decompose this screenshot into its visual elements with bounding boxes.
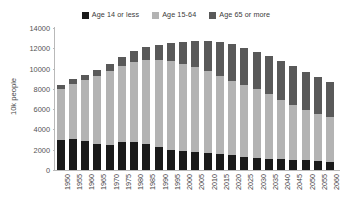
plot-area: [55, 28, 339, 170]
bar-segment: [326, 162, 334, 170]
y-axis-tick-label: 4000: [34, 126, 53, 133]
bar-segment: [130, 62, 138, 142]
bar-segment: [167, 61, 175, 149]
bar-segment: [179, 42, 187, 64]
bar-segment: [204, 71, 212, 153]
y-axis-tick-label: 8000: [34, 86, 53, 93]
bar-stack[interactable]: [130, 51, 138, 170]
x-axis-tick-label: 2035: [272, 174, 280, 190]
bar-stack[interactable]: [179, 42, 187, 170]
bar-segment: [69, 84, 77, 140]
bar-segment: [277, 159, 285, 170]
x-axis-tick-label: 2020: [235, 174, 243, 190]
y-axis-title: 10k people: [9, 67, 18, 127]
bar-segment: [326, 82, 334, 117]
bar-stack[interactable]: [142, 47, 150, 170]
bar-stack[interactable]: [118, 57, 126, 170]
bar-segment: [289, 160, 297, 170]
chart-legend: Age 14 or lessAge 15-64Age 65 or more: [0, 11, 352, 19]
bar-segment: [167, 43, 175, 62]
bar-stack[interactable]: [253, 52, 261, 170]
bar-segment: [179, 64, 187, 151]
bar-segment: [142, 60, 150, 144]
bar-stack[interactable]: [106, 64, 114, 170]
legend-label: Age 15-64: [162, 11, 196, 19]
bar-segment: [93, 144, 101, 170]
y-axis-tick: 14000: [0, 28, 55, 29]
y-axis-tick: 6000: [0, 109, 55, 110]
bar-segment: [106, 71, 114, 144]
bar-segment: [204, 153, 212, 170]
chart-page: Age 14 or lessAge 15-64Age 65 or more 10…: [0, 0, 352, 210]
x-axis-line: [54, 170, 340, 171]
legend-label: Age 65 or more: [219, 11, 270, 19]
bar-stack[interactable]: [216, 42, 224, 170]
bar-segment: [289, 66, 297, 105]
bar-stack[interactable]: [314, 77, 322, 170]
bar-segment: [57, 89, 65, 139]
bar-stack[interactable]: [204, 41, 212, 170]
legend-item[interactable]: Age 14 or less: [82, 11, 139, 19]
bar-segment: [302, 160, 310, 170]
bar-segment: [93, 76, 101, 144]
bar-stack[interactable]: [69, 79, 77, 170]
x-axis-tick-label: 2005: [198, 174, 206, 190]
x-axis-tick-label: 2025: [247, 174, 255, 190]
bar-segment: [130, 142, 138, 170]
y-axis-tick: 2000: [0, 150, 55, 151]
bar-segment: [228, 81, 236, 155]
bar-segment: [118, 57, 126, 66]
bar-stack[interactable]: [191, 41, 199, 170]
y-axis-tick: 10000: [0, 69, 55, 70]
x-axis-tick-label: 1970: [113, 174, 121, 190]
x-axis-tick-label: 2015: [223, 174, 231, 190]
bar-segment: [118, 66, 126, 143]
bar-segment: [167, 150, 175, 170]
bar-stack[interactable]: [240, 48, 248, 170]
bar-stack[interactable]: [265, 56, 273, 170]
x-axis-tick-label: 1995: [174, 174, 182, 190]
bar-segment: [81, 80, 89, 141]
bar-segment: [277, 100, 285, 159]
bar-segment: [191, 152, 199, 170]
bar-segment: [314, 161, 322, 170]
y-axis-tick-label: 6000: [34, 106, 53, 113]
x-axis-tick-label: 2050: [309, 174, 317, 190]
bar-segment: [69, 139, 77, 170]
y-axis-tick-label: 10000: [29, 66, 53, 73]
y-axis-tick: 4000: [0, 129, 55, 130]
bar-stack[interactable]: [167, 43, 175, 170]
bar-segment: [228, 155, 236, 170]
y-axis-tick: 8000: [0, 89, 55, 90]
x-axis-tick-label: 1975: [125, 174, 133, 190]
bar-stack[interactable]: [155, 45, 163, 170]
bar-segment: [155, 45, 163, 60]
bar-segment: [240, 85, 248, 157]
bar-segment: [130, 51, 138, 62]
bar-stack[interactable]: [326, 82, 334, 170]
y-axis-tick-mark: [53, 170, 55, 171]
legend-item[interactable]: Age 65 or more: [209, 11, 270, 19]
bar-segment: [216, 76, 224, 154]
y-axis-tick-label: 0: [46, 167, 53, 174]
bar-segment: [106, 145, 114, 171]
y-axis-tick-label: 12000: [29, 45, 53, 52]
legend-item[interactable]: Age 15-64: [152, 11, 196, 19]
x-axis-tick-label: 2010: [211, 174, 219, 190]
bar-segment: [253, 89, 261, 158]
y-axis-tick: 0: [0, 170, 55, 171]
x-axis-tick-label: 2030: [260, 174, 268, 190]
bar-stack[interactable]: [81, 75, 89, 170]
bar-segment: [314, 77, 322, 114]
bar-stack[interactable]: [302, 72, 310, 170]
bar-segment: [155, 60, 163, 147]
bar-segment: [179, 151, 187, 170]
bar-stack[interactable]: [277, 61, 285, 170]
bar-stack[interactable]: [93, 70, 101, 170]
bar-segment: [253, 52, 261, 89]
x-axis-tick-label: 2045: [296, 174, 304, 190]
bar-stack[interactable]: [228, 44, 236, 170]
bar-stack[interactable]: [289, 66, 297, 170]
bar-stack[interactable]: [57, 85, 65, 170]
bar-segment: [216, 42, 224, 76]
